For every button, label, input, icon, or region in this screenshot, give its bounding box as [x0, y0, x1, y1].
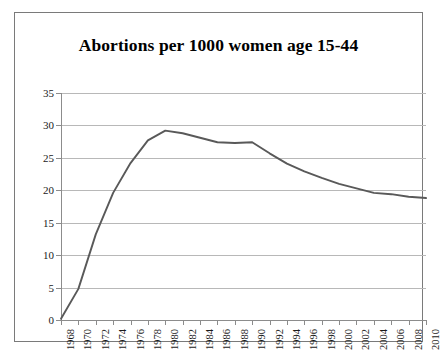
y-tick-label: 0	[49, 314, 55, 326]
x-tick-label: 1970	[82, 329, 93, 350]
y-tick-label: 35	[43, 87, 54, 99]
x-tick-label: 1980	[169, 329, 180, 350]
chart-title: Abortions per 1000 women age 15-44	[15, 35, 422, 56]
x-tick-label: 1974	[117, 329, 128, 350]
x-tick-label: 2006	[395, 329, 406, 350]
x-tick-label: 2000	[343, 329, 354, 350]
data-line	[61, 131, 426, 319]
plot-area: 05101520253035 1968197019721974197619781…	[61, 93, 426, 320]
y-tick-label: 20	[43, 184, 54, 196]
x-tick-label: 1976	[135, 329, 146, 350]
y-tick-label: 5	[49, 282, 55, 294]
x-tick	[426, 320, 427, 325]
x-tick-label: 1986	[221, 329, 232, 350]
x-tick-label: 1992	[274, 329, 285, 350]
chart-frame: Abortions per 1000 women age 15-44 05101…	[14, 12, 423, 342]
x-tick-label: 2008	[413, 329, 424, 350]
y-tick-label: 10	[43, 249, 54, 261]
y-tick-label: 15	[43, 217, 54, 229]
x-axis-line	[61, 320, 426, 321]
x-tick-label: 1988	[239, 329, 250, 350]
x-tick-label: 2010	[430, 329, 440, 350]
x-tick-label: 2002	[360, 329, 371, 350]
x-tick-label: 1968	[65, 329, 76, 350]
x-tick-label: 1998	[326, 329, 337, 350]
x-tick-label: 1978	[152, 329, 163, 350]
x-tick-label: 1996	[308, 329, 319, 350]
x-tick-label: 1984	[204, 329, 215, 350]
x-tick-label: 2004	[378, 329, 389, 350]
x-tick-label: 1994	[291, 329, 302, 350]
data-line-series	[61, 93, 426, 320]
y-tick-label: 30	[43, 119, 54, 131]
x-tick-label: 1990	[256, 329, 267, 350]
y-tick-label: 25	[43, 152, 54, 164]
x-tick-label: 1972	[100, 329, 111, 350]
x-tick-label: 1982	[187, 329, 198, 350]
